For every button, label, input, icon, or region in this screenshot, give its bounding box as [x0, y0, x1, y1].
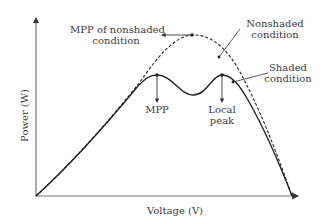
nonshaded-label: Nonshaded condition: [240, 18, 310, 40]
y-axis-label: Power (W): [19, 86, 30, 146]
shaded-label-line2: condition: [258, 73, 318, 84]
x-axis-label: Voltage (V): [140, 205, 210, 216]
local-peak-label-line1: Local: [202, 104, 242, 115]
shaded-label-line1: Shaded: [258, 62, 318, 73]
nonshaded-label-line1: Nonshaded: [240, 18, 310, 29]
nonshaded-pointer-line: [219, 29, 240, 57]
nonshaded-curve: [36, 35, 292, 196]
local-peak-label: Local peak: [202, 104, 242, 126]
mpp-label-text: MPP: [140, 104, 174, 115]
mpp-label: MPP: [140, 104, 174, 115]
mpp-nonshaded-label-line1: MPP of nonshaded: [70, 24, 162, 35]
mpp-nonshaded-label-line2: condition: [70, 35, 162, 46]
local-peak-label-line2: peak: [202, 115, 242, 126]
shaded-curve: [36, 75, 292, 196]
shaded-label: Shaded condition: [258, 62, 318, 84]
mpp-nonshaded-label: MPP of nonshaded condition: [70, 24, 162, 46]
nonshaded-label-line2: condition: [240, 29, 310, 40]
